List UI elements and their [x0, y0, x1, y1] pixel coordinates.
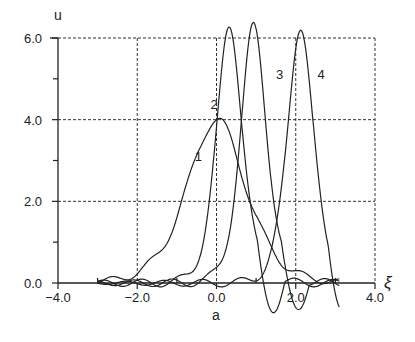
grid-lines	[58, 38, 375, 283]
curve-label-1: 1	[195, 149, 202, 164]
y-tick-label: 6.0	[24, 31, 42, 46]
y-tick-label: 2.0	[24, 194, 42, 209]
curve-3	[98, 22, 340, 309]
xi-axis-label: ξ	[384, 273, 393, 292]
x-tick-label: 4.0	[366, 290, 384, 305]
axes	[50, 38, 375, 289]
curve-2	[98, 27, 340, 313]
curves	[98, 22, 340, 312]
x-axis-label: a	[212, 307, 220, 323]
x-tick-label: −2.0	[124, 290, 150, 305]
curve-label-2: 2	[211, 97, 218, 112]
chart: −4.0−2.00.02.04.00.02.04.06.0 1234 u a ξ	[0, 0, 415, 342]
curve-label-3: 3	[276, 67, 283, 82]
y-axis-label: u	[54, 7, 62, 23]
curve-label-4: 4	[318, 67, 325, 82]
y-tick-label: 4.0	[24, 113, 42, 128]
y-tick-label: 0.0	[24, 276, 42, 291]
x-tick-label: 2.0	[287, 290, 305, 305]
x-tick-label: −4.0	[45, 290, 71, 305]
x-tick-label: 0.0	[207, 290, 225, 305]
